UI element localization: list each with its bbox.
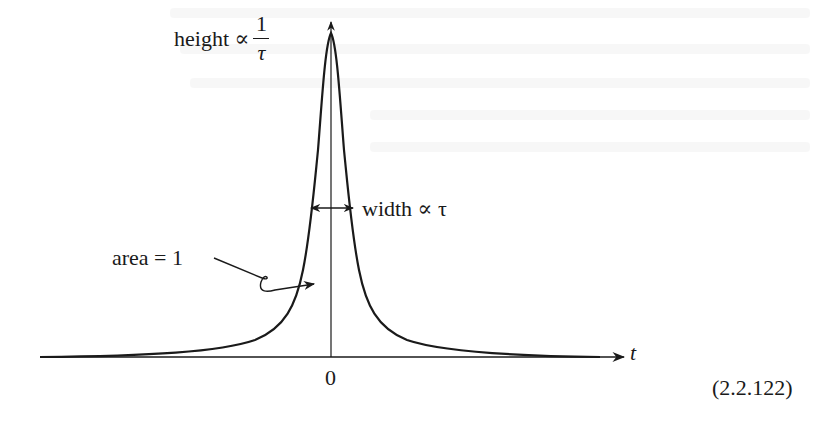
height-fraction: 1 τ <box>253 13 269 64</box>
height-label-prefix: height ∝ <box>174 28 249 50</box>
area-pointer-arrow <box>214 258 314 291</box>
height-label: height ∝ 1 τ <box>174 13 269 64</box>
origin-tick-label: 0 <box>325 367 336 389</box>
t-axis-label: t <box>630 342 636 364</box>
height-fraction-numerator: 1 <box>254 13 269 35</box>
fraction-bar <box>253 38 269 39</box>
width-label: width ∝ τ <box>362 198 447 220</box>
equation-number: (2.2.122) <box>712 377 793 399</box>
area-label: area = 1 <box>112 247 183 269</box>
height-fraction-denominator: τ <box>257 42 265 64</box>
peaked-curve <box>40 33 600 357</box>
